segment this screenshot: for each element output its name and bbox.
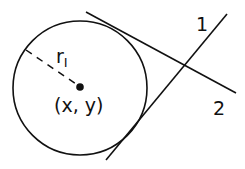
line-1-label: 1	[196, 13, 208, 35]
tangent-line-2	[86, 12, 236, 93]
center-label: (x, y)	[54, 94, 103, 116]
diagram-canvas: rI (x, y) 1 2	[0, 0, 245, 169]
radius-label: rI	[56, 45, 68, 70]
tangent-line-1	[106, 14, 227, 160]
center-point	[76, 83, 84, 91]
radius-dashed-line	[26, 50, 76, 84]
line-2-label: 2	[213, 97, 225, 119]
